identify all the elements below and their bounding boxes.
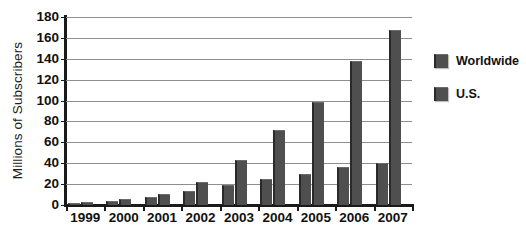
- bar-us: [145, 197, 157, 205]
- bar-worldwide: [81, 202, 93, 205]
- x-axis-tick: [66, 204, 68, 211]
- legend-label-us: U.S.: [456, 88, 480, 101]
- x-axis-tick-label: 2007: [378, 211, 408, 225]
- bar-group: [374, 17, 412, 205]
- x-axis-tick-label: 2006: [339, 211, 369, 225]
- bar-us: [260, 179, 272, 205]
- x-axis-tick: [335, 204, 337, 211]
- y-axis-tick-label: 60: [44, 136, 59, 150]
- legend-label-worldwide: Worldwide: [456, 55, 519, 68]
- x-axis-tick-label: 2003: [224, 211, 254, 225]
- y-axis-tick-label: 180: [36, 10, 59, 24]
- y-axis-tick-label: 140: [36, 52, 59, 66]
- bar-worldwide: [119, 199, 131, 205]
- bar-us: [299, 174, 311, 205]
- bar-chart-figure: Millions of Subscribers 0204060801001201…: [0, 0, 526, 237]
- bar-us: [222, 185, 234, 205]
- bar-group: [143, 17, 181, 205]
- legend-item-worldwide: Worldwide: [434, 54, 519, 68]
- x-axis-tick: [181, 204, 183, 211]
- bar-us: [106, 201, 118, 205]
- y-axis-tick-label: 160: [36, 31, 59, 45]
- bar-group: [66, 17, 104, 205]
- bar-group: [258, 17, 296, 205]
- x-axis-tick: [258, 204, 260, 211]
- x-axis-tick-label: 2001: [147, 211, 177, 225]
- bar-worldwide: [389, 30, 401, 205]
- legend-swatch-icon-us: [434, 87, 448, 101]
- x-axis-tick-label: 2002: [186, 211, 216, 225]
- x-axis-tick-label: 2005: [301, 211, 331, 225]
- y-axis-tick-label: 0: [51, 198, 59, 212]
- bar-group: [297, 17, 335, 205]
- y-axis-tick-label: 20: [44, 177, 59, 191]
- bar-worldwide: [350, 61, 362, 205]
- chart-legend: Worldwide U.S.: [434, 54, 519, 101]
- y-axis-tick-label: 80: [44, 115, 59, 129]
- y-axis-tick-label: 100: [36, 94, 59, 108]
- x-axis-tick: [374, 204, 376, 211]
- y-axis-title: Millions of Subscribers: [4, 8, 30, 213]
- x-axis-tick: [412, 204, 414, 211]
- bar-us: [337, 167, 349, 205]
- caption-strip: [0, 230, 526, 237]
- x-axis-tick-label: 2004: [262, 211, 292, 225]
- y-axis-tick-label: 120: [36, 73, 59, 87]
- y-axis-tick-label: 40: [44, 156, 59, 170]
- x-axis-tick: [104, 204, 106, 211]
- x-axis-tick-label: 2000: [109, 211, 139, 225]
- x-axis-tick: [297, 204, 299, 211]
- bar-worldwide: [235, 160, 247, 205]
- bar-worldwide: [273, 130, 285, 205]
- legend-swatch-icon-worldwide: [434, 54, 448, 68]
- plot-area: 020406080100120140160180: [66, 17, 412, 205]
- x-axis-tick-label: 1999: [70, 211, 100, 225]
- bar-group: [220, 17, 258, 205]
- x-axis-tick: [220, 204, 222, 211]
- bar-worldwide: [312, 102, 324, 205]
- bar-group: [335, 17, 373, 205]
- x-axis-tick: [143, 204, 145, 211]
- bar-worldwide: [158, 194, 170, 205]
- bar-worldwide: [196, 182, 208, 205]
- bar-group: [104, 17, 142, 205]
- bar-us: [376, 163, 388, 205]
- legend-item-us: U.S.: [434, 87, 519, 101]
- bar-us: [68, 203, 80, 205]
- bar-us: [183, 191, 195, 205]
- bar-group: [181, 17, 219, 205]
